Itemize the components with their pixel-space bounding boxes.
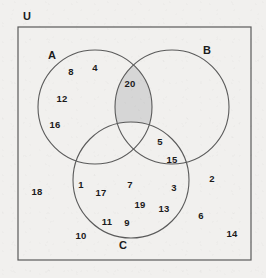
set-label-b: B: [203, 44, 211, 56]
venn-element-11: 11: [102, 216, 112, 227]
universe-label: U: [23, 10, 31, 22]
venn-element-2: 2: [209, 173, 214, 184]
set-label-a: A: [48, 49, 56, 61]
venn-element-6: 6: [198, 210, 203, 221]
venn-element-12: 12: [57, 93, 68, 104]
venn-element-5: 5: [157, 136, 162, 147]
venn-element-7: 7: [127, 179, 132, 190]
venn-element-13: 13: [159, 203, 170, 214]
venn-element-16: 16: [50, 119, 61, 130]
set-label-c: C: [119, 239, 127, 251]
venn-element-1: 1: [78, 179, 83, 190]
venn-element-18: 18: [32, 186, 43, 197]
venn-element-20: 20: [125, 78, 136, 89]
venn-element-4: 4: [92, 62, 97, 73]
venn-diagram-canvas: U ABC 8412162051511773191311921861014: [0, 0, 266, 278]
venn-element-10: 10: [76, 230, 87, 241]
venn-element-17: 17: [96, 187, 107, 198]
venn-element-9: 9: [124, 217, 129, 228]
venn-element-15: 15: [167, 154, 178, 165]
shaded-region-a-intersect-b: [115, 50, 229, 164]
venn-element-19: 19: [135, 199, 146, 210]
venn-element-14: 14: [227, 228, 238, 239]
venn-element-8: 8: [68, 66, 73, 77]
venn-element-3: 3: [171, 182, 176, 193]
